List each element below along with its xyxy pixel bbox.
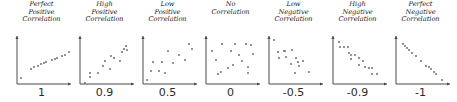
panel-title: High Negative Correlation [326,1,389,24]
data-point [297,61,299,63]
data-point [302,60,304,62]
data-point [220,71,222,73]
y-axis-arrow-icon [267,36,270,39]
data-point [411,52,413,54]
data-point [368,67,370,69]
data-point [158,70,160,72]
data-point [234,43,236,45]
data-point [284,50,286,52]
scatter-plot [389,33,452,87]
data-point [33,66,35,68]
data-point [89,76,91,78]
data-point [232,64,234,66]
data-point [97,72,99,74]
data-point [273,39,275,41]
data-point [43,62,45,64]
data-point [420,60,422,62]
data-point [227,67,229,69]
scatter-plot [199,33,262,87]
data-point [191,48,193,50]
data-point [51,59,53,61]
data-point [294,72,296,74]
data-point [45,61,47,63]
data-point [290,63,292,65]
data-point [64,54,66,56]
y-axis-arrow-icon [394,36,397,39]
correlation-panel: High Negative Correlation-0.9 [326,0,389,102]
data-point [308,71,310,73]
data-point [20,77,22,79]
data-point [61,55,63,57]
data-point [152,61,154,63]
data-point [247,66,249,68]
panel-title: High Positive Correlation [73,1,136,24]
data-point [230,50,232,52]
data-point [277,51,279,53]
data-point [37,65,39,67]
data-point [425,65,427,67]
y-axis-arrow-icon [15,36,18,39]
data-point [402,43,404,45]
correlation-value: 0 [199,86,262,99]
data-point [435,73,437,75]
data-point [358,57,360,59]
data-point [104,60,106,62]
data-point [164,72,166,74]
data-point [121,51,123,53]
correlation-value: -0.5 [262,86,325,99]
y-axis-arrow-icon [204,36,207,39]
data-point [161,61,163,63]
panel-title: No Correlation [199,1,262,16]
data-point [298,65,300,67]
data-point [358,64,360,66]
data-point [430,68,432,70]
scatter-plot [262,33,325,87]
data-point [89,72,91,74]
data-point [84,82,86,84]
data-point [343,46,345,48]
data-point [371,67,373,69]
data-point [125,45,127,47]
data-point [102,65,104,67]
data-point [354,54,356,56]
data-point [350,54,352,56]
data-point [433,71,435,73]
data-point [291,49,293,51]
data-point [30,68,32,70]
panel-title: Low Positive Correlation [136,1,199,24]
data-point [211,50,213,52]
data-point [119,60,121,62]
data-point [247,72,249,74]
correlation-panel: No Correlation0 [199,0,262,102]
y-axis-arrow-icon [78,36,81,39]
data-point [364,66,366,68]
data-point [278,57,280,59]
data-point [68,51,70,53]
data-point [295,57,297,59]
y-axis-arrow-icon [141,36,144,39]
data-point [408,49,410,51]
correlation-panel: Perfect Positive Correlation1 [10,0,73,102]
panel-title: Perfect Positive Correlation [10,1,73,24]
data-point [245,43,247,45]
data-point [217,73,219,75]
data-point [339,46,341,48]
y-axis-arrow-icon [331,36,334,39]
data-point [146,79,148,81]
data-point [54,58,56,60]
correlation-value: -1 [389,86,452,99]
data-point [376,73,378,75]
data-point [362,60,364,62]
data-point [250,44,252,46]
correlation-panel: Low Negative Correlation-0.5 [262,0,325,102]
data-point [110,55,112,57]
data-point [371,73,373,75]
correlation-panel: Perfect Negative Correlation-1 [389,0,452,102]
panel-title: Low Negative Correlation [262,1,325,24]
correlation-panel: Low Positive Correlation0.5 [136,0,199,102]
data-point [184,59,186,61]
data-point [238,54,240,56]
data-point [350,58,352,60]
correlation-value: 0.9 [73,86,136,99]
data-point [215,59,217,61]
